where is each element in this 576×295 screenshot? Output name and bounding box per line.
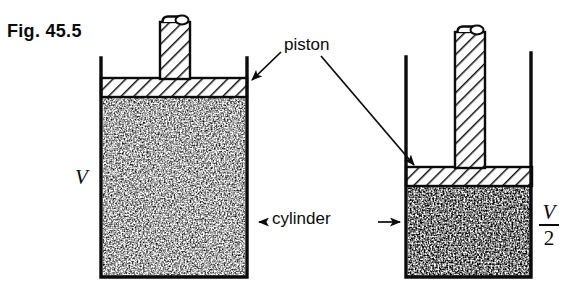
right-gas-region — [408, 186, 530, 276]
volume-label-left: V — [75, 165, 88, 190]
left-piston-slab — [101, 78, 247, 97]
left-gas-region — [103, 97, 245, 276]
left-piston-rod — [160, 16, 190, 80]
right-piston-slab — [406, 167, 532, 186]
volume-fraction-denominator: 2 — [539, 227, 559, 249]
piston-label: piston — [284, 35, 329, 55]
volume-label-right: V 2 — [539, 201, 559, 249]
right-piston-rod — [455, 26, 485, 169]
volume-fraction-numerator: V — [539, 201, 559, 223]
cylinder-label: cylinder — [272, 209, 331, 229]
right-cylinder-assembly — [406, 26, 532, 278]
piston-leader-lines — [252, 52, 414, 165]
figure-container: Fig. 45.5 — [0, 0, 576, 295]
left-cylinder-assembly — [101, 16, 247, 278]
